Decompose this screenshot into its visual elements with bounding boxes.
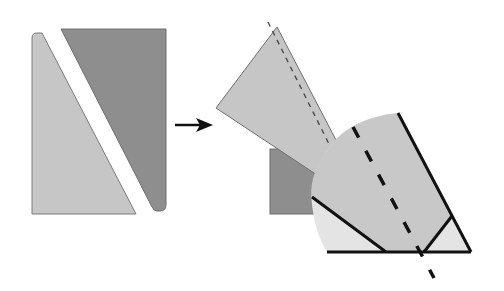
- fold-diagram: [0, 0, 504, 291]
- arrow-right-icon: [175, 118, 213, 132]
- after-step: [216, 22, 471, 278]
- before-step: [32, 29, 166, 214]
